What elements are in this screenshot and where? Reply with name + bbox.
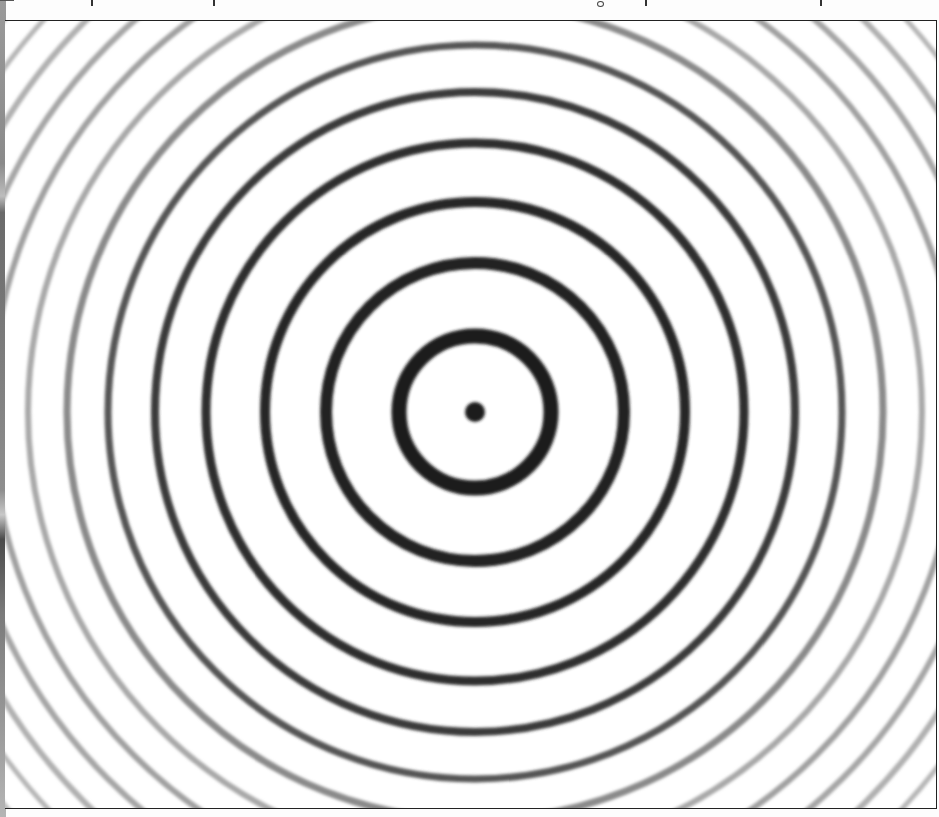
scanned-page: [0, 0, 939, 817]
text-fragment: [0, 0, 14, 1]
center-dot: [465, 402, 485, 422]
rings-group: [5, 20, 937, 809]
clipped-text-line: [0, 0, 939, 8]
text-fragment: [597, 1, 604, 7]
text-fragment: [91, 0, 93, 6]
figure-frame: [5, 20, 937, 809]
text-fragment: [820, 0, 822, 6]
text-fragment: [213, 0, 215, 6]
text-fragment: [645, 0, 647, 6]
concentric-rings-figure: [5, 20, 937, 809]
